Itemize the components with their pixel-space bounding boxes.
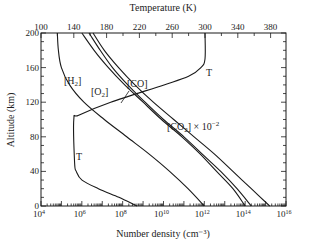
x-tick-label: 1014	[236, 209, 251, 219]
x-tick-label: 108	[115, 209, 127, 219]
x2-tick-label: 180	[100, 22, 114, 32]
x2-tick-label: 300	[198, 22, 212, 32]
x-tick-label: 1012	[195, 209, 210, 219]
series-line-co	[89, 33, 251, 206]
x2-axis-title: Temperature (K)	[130, 2, 197, 14]
y-axis-title: Altitude (km)	[5, 93, 17, 148]
series-line-t	[74, 33, 206, 206]
label-temperature-lower: T	[76, 151, 82, 162]
x-tick-label: 1016	[277, 209, 292, 219]
altitude-profile-chart: Temperature (K) Number density (cm⁻³) Al…	[0, 0, 309, 244]
label-h2: [H2]	[64, 75, 81, 88]
x2-tick-label: 340	[231, 22, 245, 32]
y-tick-label: 120	[26, 97, 40, 107]
x-tick-label: 106	[74, 209, 86, 219]
x2-tick-label: 100	[34, 22, 48, 32]
label-temperature-upper: T	[206, 67, 212, 78]
x2-tick-label: 380	[264, 22, 278, 32]
x-tick-label: 1010	[154, 209, 169, 219]
y-tick-label: 0	[35, 201, 40, 211]
x2-tick-label: 220	[133, 22, 147, 32]
x-axis-title: Number density (cm⁻³)	[116, 228, 210, 240]
y-tick-label: 160	[26, 63, 40, 73]
label-co2: [CO2] × 10−2	[167, 120, 220, 134]
y-tick-label: 40	[30, 166, 40, 176]
x2-tick-label: 140	[67, 22, 81, 32]
x2-tick-label: 260	[165, 22, 179, 32]
y-tick-label: 80	[30, 132, 40, 142]
label-o2: [O2]	[91, 86, 108, 99]
label-co: [CO]	[127, 78, 148, 89]
series-line-co2-x-10-2	[93, 33, 270, 206]
series-line-h2	[57, 33, 204, 206]
